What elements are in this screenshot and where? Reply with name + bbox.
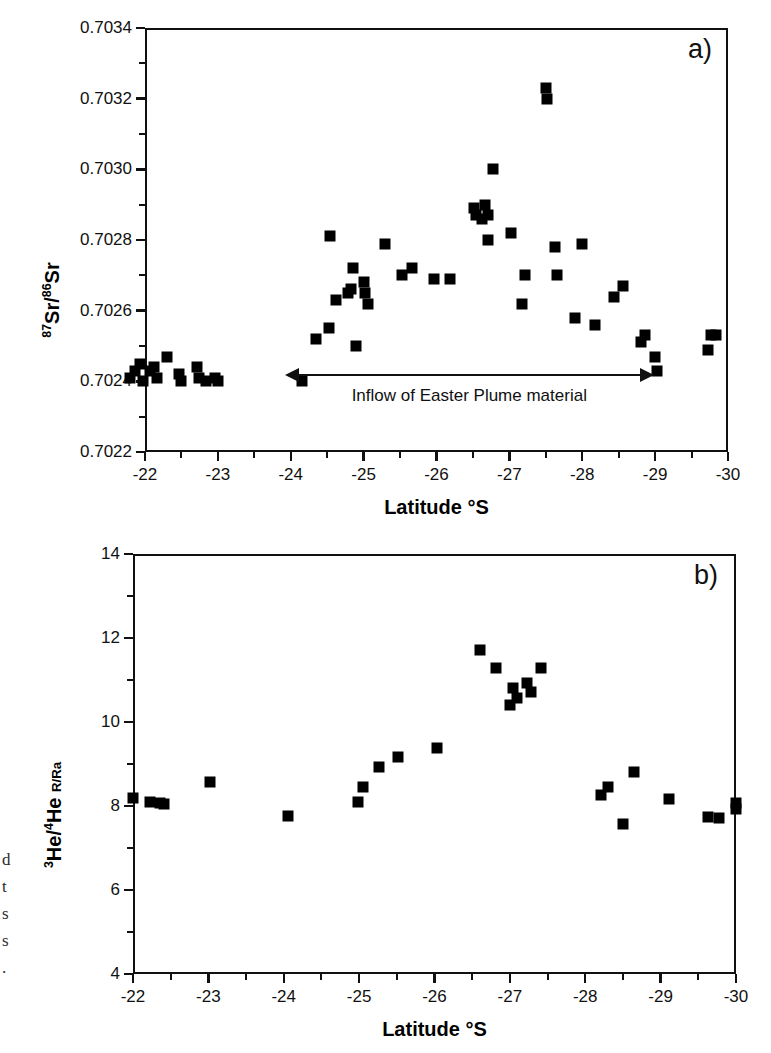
data-point (663, 794, 674, 805)
x-axis-tick (659, 974, 661, 983)
data-point (488, 164, 499, 175)
data-point (731, 798, 742, 809)
y-axis-tick-label: 14 (101, 544, 120, 564)
x-axis-tick (362, 452, 364, 461)
x-axis-tick (290, 452, 292, 461)
data-point (444, 273, 455, 284)
x-axis-minor-tick (545, 452, 547, 458)
inflow-annotation-label: Inflow of Easter Plume material (352, 386, 587, 406)
panel-a-y-axis-title: 87Sr/86Sr (40, 262, 64, 337)
data-point (552, 270, 563, 281)
x-axis-tick-label: -28 (573, 987, 598, 1007)
data-point (549, 242, 560, 253)
y-axis-minor-tick (139, 133, 145, 135)
panel-a-x-axis-title: Latitude °S (145, 496, 728, 519)
data-point (491, 663, 502, 674)
data-point (351, 341, 362, 352)
data-point (479, 199, 490, 210)
data-point (128, 793, 139, 804)
y-axis-tick-label: 6 (111, 880, 120, 900)
y-axis-tick-label: 0.7022 (80, 442, 132, 462)
x-axis-tick (433, 974, 435, 983)
data-point (374, 762, 385, 773)
y-axis-tick-label: 0.7026 (80, 301, 132, 321)
data-point (617, 818, 628, 829)
data-point (711, 330, 722, 341)
panel-b-letter: b) (694, 560, 718, 591)
x-axis-tick-label: -29 (643, 465, 668, 485)
data-point (542, 93, 553, 104)
x-axis-tick (217, 452, 219, 461)
y-axis-tick-label: 12 (101, 628, 120, 648)
data-point (348, 263, 359, 274)
x-axis-minor-tick (399, 452, 401, 458)
x-axis-minor-tick (326, 452, 328, 458)
data-point (482, 235, 493, 246)
x-axis-tick-label: -28 (570, 465, 595, 485)
y-axis-minor-tick (139, 204, 145, 206)
y-axis-tick-label: 4 (111, 964, 120, 984)
data-point (358, 781, 369, 792)
data-point (603, 781, 614, 792)
y-axis-tick (136, 97, 145, 99)
data-point (609, 291, 620, 302)
data-point (137, 376, 148, 387)
y-axis-minor-tick (127, 931, 133, 933)
data-point (475, 644, 486, 655)
x-axis-tick-label: -22 (133, 465, 158, 485)
y-axis-minor-tick (139, 345, 145, 347)
y-axis-tick (136, 309, 145, 311)
data-point (358, 277, 369, 288)
x-axis-tick (584, 974, 586, 983)
y-axis-minor-tick (139, 416, 145, 418)
data-point (702, 344, 713, 355)
x-axis-tick-label: -22 (121, 987, 146, 1007)
data-point (590, 319, 601, 330)
y-axis-minor-tick (127, 679, 133, 681)
x-axis-tick (735, 974, 737, 983)
data-point (212, 376, 223, 387)
x-axis-minor-tick (691, 452, 693, 458)
data-point (149, 362, 160, 373)
x-axis-tick (358, 974, 360, 983)
x-axis-minor-tick (245, 974, 247, 980)
data-point (505, 227, 516, 238)
data-point (151, 372, 162, 383)
arrow-head-right-icon (640, 368, 654, 382)
data-point (713, 812, 724, 823)
data-point (702, 811, 713, 822)
data-point (520, 270, 531, 281)
data-point (330, 295, 341, 306)
panel-b-plot-area: 468101214-22-23-24-25-26-27-28-29-30 (133, 554, 736, 974)
data-point (393, 752, 404, 763)
data-point (360, 288, 371, 299)
y-axis-tick (124, 637, 133, 639)
x-axis-tick-label: -27 (498, 987, 523, 1007)
x-axis-minor-tick (622, 974, 624, 980)
data-point (161, 351, 172, 362)
x-axis-minor-tick (618, 452, 620, 458)
y-axis-tick-label: 10 (101, 712, 120, 732)
x-axis-tick-label: -23 (206, 465, 231, 485)
x-axis-minor-tick (396, 974, 398, 980)
panel-a-plot-area: 0.70220.70240.70260.70280.70300.70320.70… (145, 28, 728, 452)
x-axis-minor-tick (472, 452, 474, 458)
data-point (511, 692, 522, 703)
x-axis-minor-tick (320, 974, 322, 980)
y-axis-tick (136, 168, 145, 170)
panel-b-plot: 468101214-22-23-24-25-26-27-28-29-30 b) … (133, 554, 736, 974)
x-axis-tick-label: -30 (716, 465, 741, 485)
y-axis-tick-label: 8 (111, 796, 120, 816)
x-axis-minor-tick (471, 974, 473, 980)
data-point (325, 231, 336, 242)
x-axis-tick (435, 452, 437, 461)
x-axis-minor-tick (180, 452, 182, 458)
panel-b-x-axis-title: Latitude °S (133, 1018, 736, 1041)
data-point (282, 811, 293, 822)
y-axis-tick (136, 27, 145, 29)
x-axis-tick (727, 452, 729, 461)
data-point (406, 263, 417, 274)
y-axis-minor-tick (127, 595, 133, 597)
data-point (362, 298, 373, 309)
inflow-arrow (298, 374, 641, 376)
